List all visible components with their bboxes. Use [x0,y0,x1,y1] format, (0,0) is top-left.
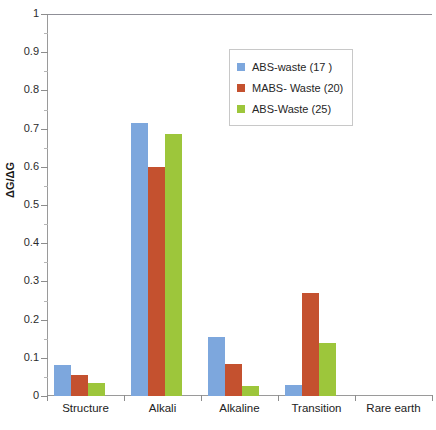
bar [208,337,225,396]
chart-legend: ABS-waste (17 ) MABS- Waste (20) ABS-Was… [229,49,353,126]
x-axis-tick [355,395,356,401]
y-axis-tick-label: 0.1 [1,352,39,363]
legend-item: ABS-waste (17 ) [237,56,343,77]
legend-swatch-icon [237,105,245,113]
legend-swatch-icon [237,84,245,92]
y-axis-minor-tick [44,33,48,34]
y-axis-tick-label: 0.6 [1,161,39,172]
x-axis-label: Alkaline [201,402,278,414]
x-axis-tick [124,395,125,401]
bar-chart: ΔG/ΔG 10.90.80.70.60.50.40.30.20.10 Stru… [0,0,436,430]
y-axis-tick [41,90,48,91]
bar [242,386,259,396]
y-axis-tick [41,129,48,130]
x-axis-label: Transition [278,402,355,414]
plot-top-border [47,14,432,15]
bar [88,383,105,396]
y-axis-minor-tick [44,262,48,263]
y-axis-minor-tick [44,110,48,111]
y-axis-minor-tick [44,186,48,187]
y-axis-tick-label: 0.5 [1,199,39,210]
x-axis-tick [201,395,202,401]
y-axis-tick-label: 0.4 [1,237,39,248]
y-axis-tick-label: 0.3 [1,275,39,286]
y-axis-tick-label: 0.8 [1,84,39,95]
y-axis-tick-label: 0.9 [1,46,39,57]
bar [165,134,182,396]
y-axis-tick-label: 0.2 [1,314,39,325]
x-axis-tick [47,395,48,401]
x-axis-label: Alkali [124,402,201,414]
y-axis-tick-label: 0.7 [1,123,39,134]
y-axis-minor-tick [44,377,48,378]
x-axis-labels: StructureAlkaliAlkalineTransitionRare ea… [47,402,432,422]
y-axis-tick [41,14,48,15]
y-axis-tick [41,205,48,206]
bar [302,293,319,396]
x-axis-tick [278,395,279,401]
bar [131,123,148,396]
y-axis-tick [41,320,48,321]
bar [148,167,165,396]
bar [319,343,336,396]
x-axis-label: Structure [47,402,124,414]
y-axis-tick [41,167,48,168]
bar [71,375,88,396]
y-axis-minor-tick [44,71,48,72]
y-axis-tick [41,358,48,359]
y-axis-minor-tick [44,148,48,149]
y-axis-tick-label: 1 [1,8,39,19]
legend-item: ABS-Waste (25) [237,98,343,119]
x-axis-label: Rare earth [355,402,432,414]
legend-item-label: ABS-waste (17 ) [252,61,332,73]
y-axis-tick-label: 0 [1,390,39,401]
legend-swatch-icon [237,63,245,71]
y-axis-tick [41,243,48,244]
x-axis-tick [432,395,433,401]
legend-item-label: ABS-Waste (25) [252,103,331,115]
y-axis-minor-tick [44,224,48,225]
y-axis-minor-tick [44,301,48,302]
bar [285,385,302,396]
legend-item-label: MABS- Waste (20) [252,82,343,94]
bar [54,365,71,396]
y-axis-tick [41,281,48,282]
bar [225,364,242,396]
legend-item: MABS- Waste (20) [237,77,343,98]
y-axis-minor-tick [44,339,48,340]
y-axis-tick [41,52,48,53]
